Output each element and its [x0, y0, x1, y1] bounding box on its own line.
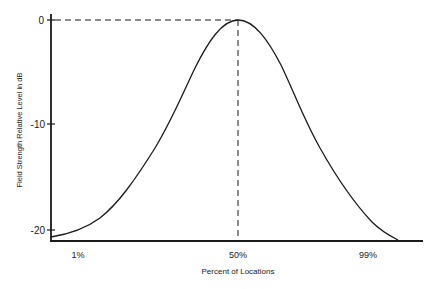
- distribution-curve: [51, 20, 398, 240]
- x-tick-label-1pct: 1%: [71, 250, 84, 260]
- chart: 0 -10 -20 Field Strength Relative Level …: [0, 0, 436, 289]
- x-tick-label-99pct: 99%: [359, 250, 377, 260]
- x-tick-label-50pct: 50%: [229, 250, 247, 260]
- y-tick-label-minus10: -10: [31, 119, 46, 130]
- y-axis-label: Field Strength Relative Level in dB: [15, 72, 24, 187]
- y-tick-label-0: 0: [38, 15, 44, 26]
- x-axis-label: Percent of Locations: [202, 267, 275, 276]
- y-tick-label-minus20: -20: [31, 225, 46, 236]
